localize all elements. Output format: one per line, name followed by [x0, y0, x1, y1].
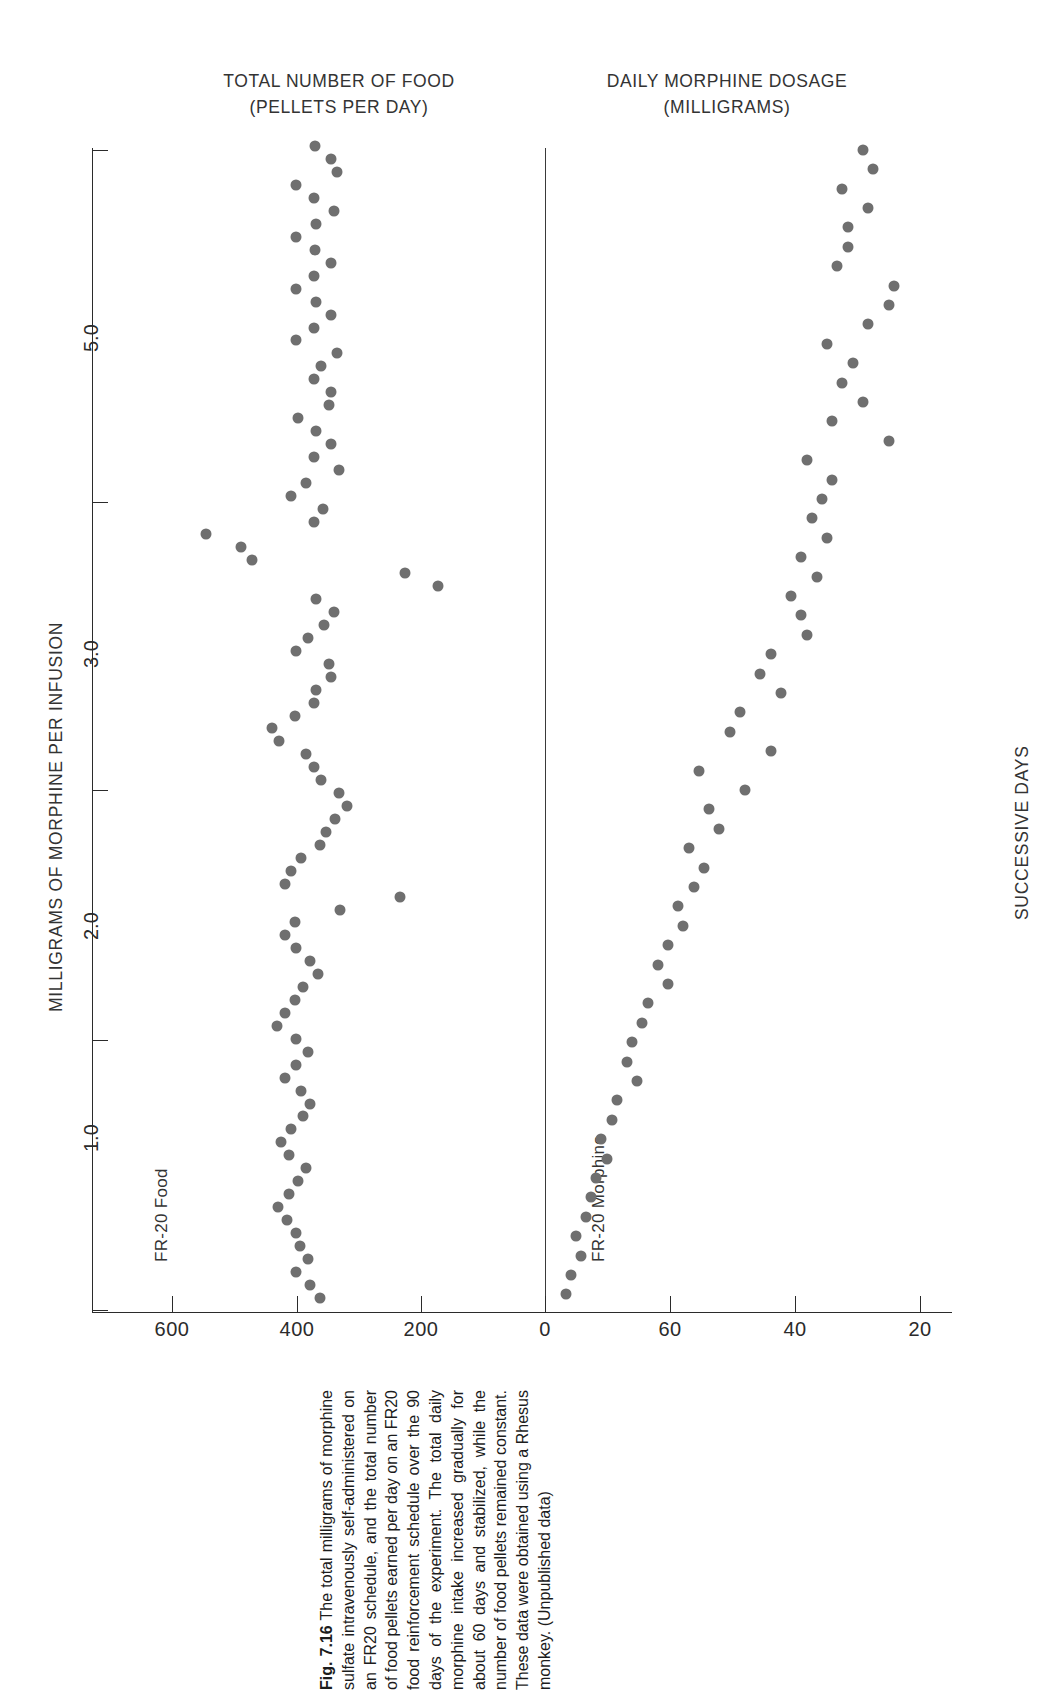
data-point — [325, 309, 336, 320]
data-point — [400, 568, 411, 579]
data-point — [310, 244, 321, 255]
data-point — [308, 374, 319, 385]
data-point — [319, 620, 330, 631]
data-point — [796, 552, 807, 563]
data-point — [329, 814, 340, 825]
data-point — [331, 167, 342, 178]
axis-label-morphine-per-infusion: MILLIGRAMS OF MORPHINE PER INFUSION — [46, 622, 67, 1012]
data-point — [842, 222, 853, 233]
data-point — [765, 746, 776, 757]
data-point — [673, 901, 684, 912]
x-tick-label-20: 20 — [908, 1318, 931, 1341]
data-point — [291, 943, 302, 954]
x-tick-label-400: 400 — [280, 1318, 315, 1341]
data-point — [272, 1202, 283, 1213]
data-point — [315, 1292, 326, 1303]
data-point — [565, 1269, 576, 1280]
data-point — [863, 202, 874, 213]
data-point — [837, 183, 848, 194]
data-point — [888, 280, 899, 291]
data-point — [622, 1056, 633, 1067]
data-point — [642, 998, 653, 1009]
data-point — [883, 299, 894, 310]
data-point — [328, 607, 339, 618]
data-point — [286, 865, 297, 876]
data-point — [297, 1111, 308, 1122]
data-point — [291, 1033, 302, 1044]
caption-number: Fig. 7.16 — [318, 1625, 335, 1690]
data-point — [300, 749, 311, 760]
data-point — [740, 784, 751, 795]
data-point — [796, 610, 807, 621]
data-point — [246, 555, 257, 566]
data-point — [305, 1279, 316, 1290]
data-point — [586, 1192, 597, 1203]
data-point — [291, 1266, 302, 1277]
x-tick-label-0: 0 — [539, 1318, 551, 1341]
data-point — [765, 649, 776, 660]
data-point — [311, 594, 322, 605]
data-point — [286, 1124, 297, 1135]
data-point — [704, 804, 715, 815]
data-point — [827, 416, 838, 427]
data-point — [693, 765, 704, 776]
data-point — [601, 1153, 612, 1164]
data-point — [297, 982, 308, 993]
data-point — [311, 296, 322, 307]
data-point — [271, 1020, 282, 1031]
data-point — [816, 493, 827, 504]
data-point — [302, 632, 313, 643]
data-point — [734, 707, 745, 718]
data-point — [611, 1095, 622, 1106]
data-point — [291, 335, 302, 346]
data-point — [291, 1227, 302, 1238]
data-point — [274, 736, 285, 747]
data-point — [570, 1231, 581, 1242]
data-point — [714, 823, 725, 834]
data-point — [296, 1085, 307, 1096]
data-point — [275, 1137, 286, 1148]
data-point — [311, 684, 322, 695]
x-tick-label-600: 600 — [155, 1318, 190, 1341]
data-point — [334, 904, 345, 915]
data-point — [328, 206, 339, 217]
data-point — [282, 1214, 293, 1225]
data-point — [331, 348, 342, 359]
panel-title-food: TOTAL NUMBER OF FOOD (PELLETS PER DAY) — [178, 68, 500, 120]
data-point — [755, 668, 766, 679]
caption-text: The total milligrams of morphine sulfate… — [318, 1390, 553, 1690]
data-point — [724, 726, 735, 737]
data-point — [308, 697, 319, 708]
data-point — [317, 503, 328, 514]
data-point — [283, 1150, 294, 1161]
data-point — [201, 529, 212, 540]
x-tick-label-200: 200 — [404, 1318, 439, 1341]
data-point — [266, 723, 277, 734]
data-point — [292, 413, 303, 424]
data-point — [342, 801, 353, 812]
data-point — [663, 978, 674, 989]
data-point — [868, 164, 879, 175]
figure-caption: Fig. 7.16 The total milligrams of morphi… — [316, 1390, 616, 1690]
data-point — [683, 843, 694, 854]
data-point — [300, 477, 311, 488]
data-point — [333, 788, 344, 799]
data-point — [325, 387, 336, 398]
data-point — [292, 1176, 303, 1187]
data-point — [302, 1253, 313, 1264]
data-point — [637, 1017, 648, 1028]
data-point — [837, 377, 848, 388]
data-point — [291, 232, 302, 243]
data-point — [394, 891, 405, 902]
data-point — [333, 464, 344, 475]
data-point — [323, 400, 334, 411]
data-point — [302, 1046, 313, 1057]
data-point — [308, 193, 319, 204]
data-point — [822, 338, 833, 349]
data-point — [308, 270, 319, 281]
y-tick-bottom — [92, 1310, 108, 1311]
data-point — [806, 513, 817, 524]
data-point — [801, 455, 812, 466]
data-point — [294, 1240, 305, 1251]
data-point — [286, 490, 297, 501]
